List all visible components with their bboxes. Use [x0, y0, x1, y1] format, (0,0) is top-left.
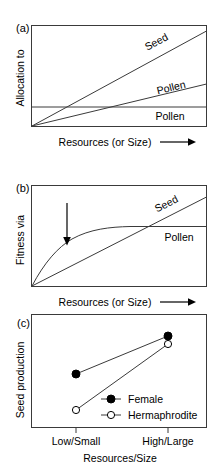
panel-a-xlabel: Resources (or Size) — [59, 136, 152, 148]
panel-c-female-line — [76, 336, 168, 374]
panel-b-letter: (b) — [16, 182, 29, 194]
legend-marker-open-circle-icon — [107, 411, 114, 418]
legend-label-female: Female — [128, 393, 163, 405]
panel-a-pollen-line-label: Pollen — [155, 78, 186, 97]
figure-root: (a) Allocation to Seed Pollen Pollen Res… — [0, 0, 224, 473]
panel-a-letter: (a) — [16, 22, 29, 34]
panel-a: (a) Allocation to Seed Pollen Pollen Res… — [0, 0, 224, 155]
panel-c-ylabel: Seed production — [14, 342, 26, 419]
panel-c-point-female-low — [72, 370, 80, 378]
panel-c-point-hermaphrodite-high — [164, 340, 171, 347]
panel-c-point-female-high — [164, 332, 172, 340]
panel-b-annotation-arrow-icon — [63, 203, 71, 246]
panel-c-xticklabel-high: High/Large — [142, 435, 194, 447]
panel-c-point-hermaphrodite-low — [72, 406, 79, 413]
legend-item-hermaphrodite: Hermaphrodite — [101, 409, 198, 421]
panel-b-pollen-label: Pollen — [164, 231, 193, 243]
panel-c: (c) Seed production Female — [0, 315, 224, 473]
panel-b-xaxis-arrow-icon — [160, 298, 196, 306]
legend-marker-filled-circle-icon — [107, 395, 115, 403]
panel-a-seed-label: Seed — [142, 30, 169, 52]
panel-c-xticklabel-low: Low/Small — [52, 435, 100, 447]
legend-item-female: Female — [101, 393, 163, 405]
panel-c-letter: (c) — [17, 317, 30, 329]
panel-b-seed-label: Seed — [153, 192, 180, 214]
panel-a-xaxis-arrow-icon — [160, 138, 196, 146]
panel-c-xlabel: Resources/Size — [83, 452, 157, 464]
panel-a-ylabel: Allocation to — [14, 49, 26, 106]
panel-c-legend: Female Hermaphrodite — [101, 393, 198, 421]
legend-label-hermaphrodite: Hermaphrodite — [128, 409, 198, 421]
panel-b: (b) Fitness via Seed Pollen Resources (o… — [0, 155, 224, 315]
panel-b-ylabel: Fitness via — [14, 215, 26, 265]
panel-b-xlabel: Resources (or Size) — [59, 296, 152, 308]
panel-a-pollen-region-label: Pollen — [155, 110, 184, 122]
